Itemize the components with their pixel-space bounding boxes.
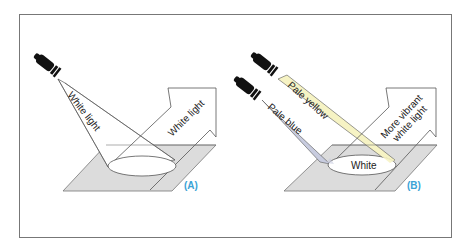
lamp-yellow-icon	[248, 50, 278, 77]
panel-label-b: (B)	[407, 180, 421, 191]
lamp-icon	[31, 51, 61, 78]
panel-b: Pale yellow Pale blue White More vibrant…	[231, 50, 437, 191]
panel-label-a: (A)	[184, 180, 198, 191]
beam-label-blue: Pale blue	[266, 101, 305, 137]
beam-label-yellow: Pale yellow	[286, 79, 332, 122]
spot-label-b: White	[351, 160, 377, 171]
light-mixing-diagram: White light White light (A) Pale	[0, 0, 473, 243]
lamp-blue-icon	[231, 74, 261, 101]
light-spot-a	[108, 156, 176, 176]
panel-a: White light White light (A)	[31, 51, 216, 191]
